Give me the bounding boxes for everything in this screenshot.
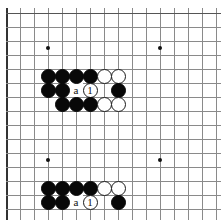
board-grid-line-vertical xyxy=(146,8,147,220)
stone-black[interactable] xyxy=(55,83,70,98)
stone-white[interactable] xyxy=(111,69,126,84)
stone-white[interactable] xyxy=(111,181,126,196)
stone-black[interactable] xyxy=(55,97,70,112)
board-grid-line-vertical xyxy=(216,8,217,220)
stone-black[interactable] xyxy=(83,97,98,112)
stone-black[interactable] xyxy=(55,181,70,196)
board-grid-line-vertical xyxy=(160,8,161,220)
star-point xyxy=(46,46,50,50)
board-grid-line-horizontal xyxy=(6,41,221,42)
star-point xyxy=(158,158,162,162)
star-point xyxy=(158,46,162,50)
stone-black[interactable] xyxy=(41,181,56,196)
stone-black[interactable] xyxy=(55,69,70,84)
star-point xyxy=(46,158,50,162)
stone-white[interactable] xyxy=(97,97,112,112)
stone-white[interactable] xyxy=(97,181,112,196)
board-grid-line-horizontal xyxy=(6,27,221,28)
board-edge-line-vertical xyxy=(6,8,8,220)
stone-black[interactable] xyxy=(69,69,84,84)
stone-move-number: 1 xyxy=(87,85,93,96)
board-grid-line-vertical xyxy=(20,8,21,220)
board-grid-line-vertical xyxy=(132,8,133,220)
board-grid-line-horizontal xyxy=(6,167,221,168)
board-grid-line-horizontal xyxy=(6,55,221,56)
board-grid-line-horizontal xyxy=(6,111,221,112)
board-grid-line-vertical xyxy=(34,8,35,220)
stone-black[interactable] xyxy=(69,181,84,196)
stone-black[interactable] xyxy=(111,195,126,210)
go-board: a1a1 xyxy=(0,0,221,220)
stone-white[interactable] xyxy=(111,97,126,112)
board-grid-line-vertical xyxy=(188,8,189,220)
stone-black[interactable] xyxy=(41,69,56,84)
board-grid-line-vertical xyxy=(202,8,203,220)
stone-black[interactable] xyxy=(41,195,56,210)
board-point-label-a[interactable]: a xyxy=(69,195,83,209)
board-edge-line-horizontal xyxy=(6,13,221,14)
board-point-label-a[interactable]: a xyxy=(69,83,83,97)
stone-black[interactable] xyxy=(111,83,126,98)
board-grid-line-horizontal xyxy=(6,125,221,126)
stone-black[interactable] xyxy=(83,69,98,84)
stone-white-numbered-1[interactable]: 1 xyxy=(83,83,98,98)
stone-move-number: 1 xyxy=(87,197,93,208)
stone-white-numbered-1[interactable]: 1 xyxy=(83,195,98,210)
stone-black[interactable] xyxy=(83,181,98,196)
board-grid-line-horizontal xyxy=(6,209,221,210)
stone-black[interactable] xyxy=(55,195,70,210)
stone-black[interactable] xyxy=(69,97,84,112)
board-grid-line-horizontal xyxy=(6,139,221,140)
board-grid-line-horizontal xyxy=(6,153,221,154)
board-grid-line-vertical xyxy=(174,8,175,220)
stone-white[interactable] xyxy=(97,69,112,84)
stone-black[interactable] xyxy=(41,83,56,98)
